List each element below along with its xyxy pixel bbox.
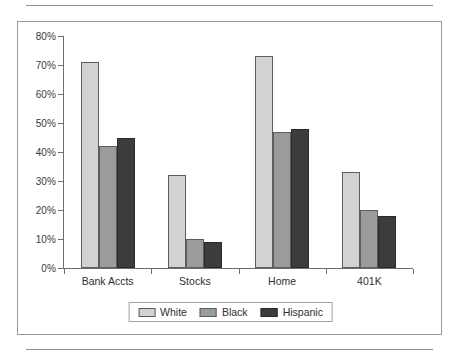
x-axis-category-label: Home <box>268 275 296 287</box>
x-axis-category-label: 401K <box>357 275 382 287</box>
y-axis-tick-label: 70% <box>36 60 56 71</box>
y-axis-tick-mark <box>58 123 63 124</box>
y-axis-tick-mark <box>58 94 63 95</box>
bar-group <box>168 36 222 268</box>
bar-hispanic-home[interactable] <box>291 129 309 268</box>
x-axis-tick-mark <box>326 269 327 274</box>
y-axis-tick-mark <box>58 152 63 153</box>
x-axis-category-labels: Bank AcctsStocksHome401K <box>64 275 413 293</box>
bar-black-bank-accts[interactable] <box>99 146 117 268</box>
y-axis-tick-label: 80% <box>36 31 56 42</box>
y-axis-tick-mark <box>58 65 63 66</box>
legend-item-label: White <box>160 306 187 318</box>
bars-container <box>64 36 413 268</box>
bar-white-bank-accts[interactable] <box>81 62 99 268</box>
legend-item-label: Hispanic <box>283 306 323 318</box>
bar-black-401k[interactable] <box>360 210 378 268</box>
x-axis-tick-mark <box>413 269 414 274</box>
legend-item-black[interactable]: Black <box>200 306 248 318</box>
bar-hispanic-stocks[interactable] <box>204 242 222 268</box>
bar-hispanic-401k[interactable] <box>378 216 396 268</box>
bar-white-home[interactable] <box>255 56 273 268</box>
bar-group <box>342 36 396 268</box>
y-axis-tick-label: 30% <box>36 176 56 187</box>
page-rule-bottom <box>26 349 433 350</box>
bar-white-stocks[interactable] <box>168 175 186 268</box>
y-axis-tick-label: 40% <box>36 147 56 158</box>
x-axis-tick-mark <box>64 269 65 274</box>
bar-group <box>81 36 135 268</box>
bar-white-401k[interactable] <box>342 172 360 268</box>
y-axis-tick-label: 20% <box>36 205 56 216</box>
legend-item-white[interactable]: White <box>138 306 187 318</box>
chart-legend: WhiteBlackHispanic <box>128 302 333 322</box>
legend-item-hispanic[interactable]: Hispanic <box>261 306 323 318</box>
y-axis-tick-mark <box>58 181 63 182</box>
legend-swatch-icon <box>261 308 278 317</box>
x-axis-category-label: Bank Accts <box>82 275 134 287</box>
y-axis-tick-label: 60% <box>36 89 56 100</box>
y-axis-labels: 0%10%20%30%40%50%60%70%80% <box>18 36 62 268</box>
bar-hispanic-bank-accts[interactable] <box>117 138 135 269</box>
bar-black-home[interactable] <box>273 132 291 268</box>
x-axis-tick-mark <box>239 269 240 274</box>
y-axis-tick-mark <box>58 210 63 211</box>
y-axis-tick-label: 50% <box>36 118 56 129</box>
y-axis-tick-label: 0% <box>41 263 56 274</box>
bar-black-stocks[interactable] <box>186 239 204 268</box>
y-axis-tick-mark <box>58 36 63 37</box>
y-axis-tick-mark <box>58 268 63 269</box>
x-axis-category-label: Stocks <box>179 275 211 287</box>
legend-item-label: Black <box>222 306 248 318</box>
page-rule-top <box>26 5 433 6</box>
y-axis-tick-label: 10% <box>36 234 56 245</box>
legend-swatch-icon <box>138 308 155 317</box>
y-axis-tick-mark <box>58 239 63 240</box>
bar-group <box>255 36 309 268</box>
x-axis-tick-mark <box>151 269 152 274</box>
legend-swatch-icon <box>200 308 217 317</box>
chart-plot-area: 0%10%20%30%40%50%60%70%80% Bank AcctsSto… <box>18 22 443 336</box>
chart-figure-frame: 0%10%20%30%40%50%60%70%80% Bank AcctsSto… <box>17 21 442 335</box>
